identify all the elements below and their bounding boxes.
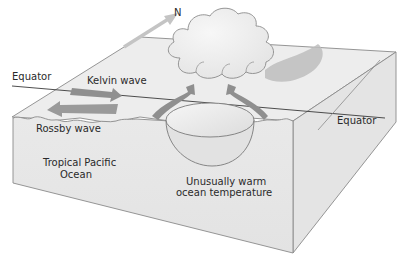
warm-water-label-line1: Unusually warm: [186, 176, 266, 187]
kelvin-wave-label: Kelvin wave: [87, 75, 147, 86]
warm-water-label-line2: ocean temperature: [176, 187, 272, 198]
ocean-label-line2: Ocean: [60, 169, 92, 180]
cloud-icon: [168, 8, 273, 78]
north-label: N: [174, 7, 181, 18]
ocean-label-line1: Tropical Pacific: [42, 157, 116, 168]
equator-label-right: Equator: [337, 115, 377, 126]
equator-label-left: Equator: [12, 71, 52, 82]
rossby-wave-label: Rossby wave: [36, 123, 101, 134]
el-nino-diagram: N Kelvin wave Rossby wave Equator Equato…: [0, 0, 400, 260]
